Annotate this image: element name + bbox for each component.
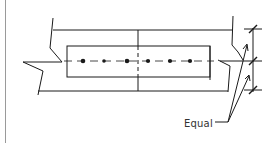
bolt-5 (168, 59, 172, 63)
right-break-line-lower (218, 60, 230, 92)
bolt-4 (146, 59, 150, 63)
bolt-1 (81, 59, 86, 64)
equal-label: Equal (184, 118, 213, 129)
left-break-line-lower (23, 62, 43, 95)
right-break-line-upper (232, 16, 243, 60)
bolt-6 (188, 59, 192, 63)
leader-line-upper (215, 45, 247, 122)
leader-line-lower (228, 76, 249, 122)
diagram-canvas: Equal (0, 0, 277, 143)
bolt-3 (125, 59, 130, 64)
bolt-2 (102, 59, 106, 63)
splice-plate-drawing (0, 0, 277, 143)
left-break-line-upper (23, 18, 62, 62)
